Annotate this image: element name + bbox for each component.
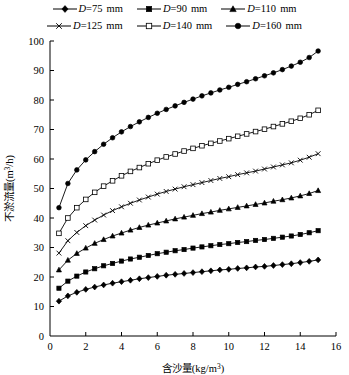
data-point [84,270,88,274]
data-point [182,100,187,105]
data-point [298,260,303,266]
data-point [200,143,205,148]
y-tick-label: 60 [34,154,45,165]
data-point [298,116,303,121]
series-d-75-mm [56,257,320,304]
data-point [128,124,133,129]
data-point [307,258,312,264]
data-point [110,208,115,213]
data-point [83,286,88,292]
data-point [253,129,258,134]
data-point [57,231,62,236]
data-point [289,119,294,124]
data-point [280,122,285,127]
data-point [155,252,159,256]
y-tick-label: 40 [34,213,45,224]
data-point [209,141,214,146]
data-point [146,195,151,200]
data-point [155,158,160,163]
data-point [92,190,97,195]
data-point [262,263,267,269]
x-tick-label: 12 [259,341,270,352]
data-point [155,111,160,116]
data-point [271,124,276,129]
data-point [57,286,61,290]
data-point [227,242,231,246]
y-tick-label: 90 [34,65,45,76]
data-point [119,174,124,179]
data-point [57,251,62,256]
series-d-125-mm [57,151,321,255]
data-point [208,268,213,274]
y-tick-label: 0 [39,331,44,342]
data-point [307,55,312,60]
data-point [191,246,195,250]
x-tick-label: 14 [295,341,306,352]
data-point [66,216,71,221]
data-point [128,277,133,283]
data-point [83,158,88,163]
data-point [226,85,231,90]
data-point [245,240,249,244]
series-d-90-mm [57,229,320,291]
series-line [59,191,318,270]
data-point [119,130,124,135]
data-point [289,234,293,238]
series-line [59,260,318,301]
data-point [155,274,160,280]
y-tick-label: 70 [34,124,45,135]
x-tick-label: 2 [83,341,88,352]
data-point [137,276,142,282]
data-point [182,247,186,251]
x-tick-label: 4 [119,341,125,352]
data-point [200,245,204,249]
data-point [110,135,115,140]
data-point [137,255,141,259]
data-point [218,242,222,246]
data-point [173,249,177,253]
data-point [307,231,311,235]
data-point [83,223,88,228]
y-tick-label: 80 [34,95,45,106]
data-point [289,64,294,69]
data-point [83,197,88,202]
data-point [146,253,150,257]
data-point [173,152,178,157]
data-point [244,132,249,137]
data-point [289,261,294,267]
data-point [191,146,196,151]
data-point [218,88,223,93]
data-point [280,67,285,72]
data-point [93,267,97,271]
data-point [200,94,205,99]
data-point [164,155,169,160]
y-tick-label: 20 [34,272,45,283]
data-point [209,244,213,248]
data-point [316,257,321,263]
data-point [137,198,142,203]
series-line [59,231,318,289]
data-point [92,284,97,290]
data-point [75,274,79,278]
data-point [65,238,70,243]
data-point [316,49,321,54]
x-tick-label: 6 [155,341,160,352]
data-point [101,213,106,218]
data-point [128,201,133,206]
data-point [190,270,195,276]
data-point [137,120,142,125]
data-point [253,238,257,242]
data-point [307,155,312,160]
data-point [253,76,258,81]
data-point [101,142,106,147]
data-point [66,181,71,186]
data-point [316,151,321,156]
data-point [217,267,222,273]
data-point [226,266,231,272]
data-point [155,192,160,197]
data-point [146,275,151,281]
series-line [59,110,318,233]
y-axis-title: 不淤流量(m3/h) [3,154,17,222]
data-point [119,204,124,209]
data-point [235,82,240,87]
